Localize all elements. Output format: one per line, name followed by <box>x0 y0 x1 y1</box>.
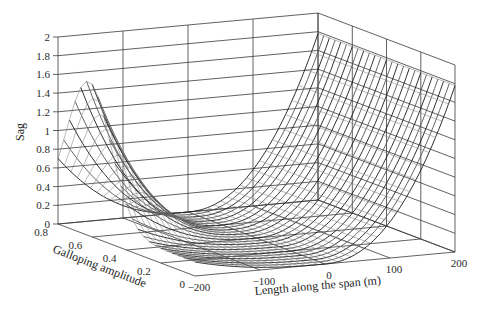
z-tick-label: 1.2 <box>36 106 50 118</box>
z-tick-label: 0.6 <box>36 162 50 174</box>
z-tick-label: 1 <box>45 125 51 137</box>
z-tick-label: 2 <box>45 31 51 43</box>
z-tick-label: 0.8 <box>36 143 50 155</box>
z-tick-label: 1.6 <box>36 68 50 80</box>
x-tick-label: 200 <box>451 257 468 269</box>
z-axis-label: Sag <box>13 123 27 141</box>
y-tick-label: 0.8 <box>34 226 48 238</box>
x-tick-label: −200 <box>188 281 211 293</box>
x-tick-label: 100 <box>386 263 403 275</box>
surface-chart: 00.20.40.60.811.21.41.61.8200.20.40.60.8… <box>0 0 483 311</box>
z-tick-label: 1.4 <box>36 87 50 99</box>
z-tick-label: 0.2 <box>36 199 50 211</box>
y-tick-label: 0 <box>180 278 186 290</box>
z-tick-label: 0.4 <box>36 181 50 193</box>
z-tick-label: 1.8 <box>36 50 50 62</box>
